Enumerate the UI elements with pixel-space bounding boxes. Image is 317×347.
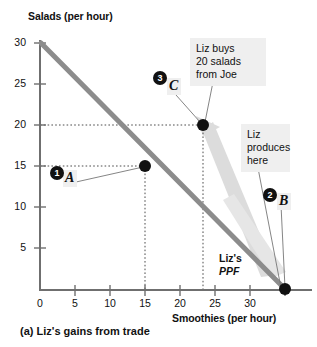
ppf-label-abbr: PPF bbox=[219, 265, 242, 278]
x-tick-label-25: 25 bbox=[205, 297, 225, 309]
y-tick-label-5: 5 bbox=[4, 241, 26, 253]
x-tick-label-0: 0 bbox=[30, 297, 50, 309]
data-point-B bbox=[279, 283, 291, 295]
callout-liz-buys: Liz buys 20 salads from Joe bbox=[190, 38, 266, 86]
ppf-plot-svg bbox=[0, 0, 317, 347]
x-tick-label-30: 30 bbox=[240, 297, 260, 309]
x-tick-label-10: 10 bbox=[100, 297, 120, 309]
y-tick-label-30: 30 bbox=[4, 36, 26, 48]
step-badge-1: 1 bbox=[50, 166, 64, 180]
data-point-A bbox=[139, 160, 151, 172]
dotted-guides bbox=[40, 125, 203, 290]
leader-B bbox=[281, 205, 285, 288]
y-tick-label-10: 10 bbox=[4, 200, 26, 212]
ppf-label-owner: Liz's bbox=[219, 252, 242, 264]
callout-liz-produces: Liz produces here bbox=[241, 124, 290, 172]
leader-buy bbox=[205, 82, 213, 122]
x-tick-label-20: 20 bbox=[170, 297, 190, 309]
data-point-C bbox=[197, 119, 209, 131]
chart-figure: Salads (per hour) Smoothies (per hour) 3… bbox=[0, 0, 317, 347]
point-label-a: A bbox=[63, 170, 77, 187]
step-badge-2: 2 bbox=[263, 188, 277, 202]
y-axis-title: Salads (per hour) bbox=[28, 10, 113, 22]
x-tick-label-15: 15 bbox=[135, 297, 155, 309]
y-tick-label-25: 25 bbox=[4, 77, 26, 89]
figure-caption: (a) Liz's gains from trade bbox=[20, 325, 150, 337]
y-tick-label-20: 20 bbox=[4, 118, 26, 130]
step-badge-3: 3 bbox=[153, 71, 167, 85]
x-tick-label-5: 5 bbox=[65, 297, 85, 309]
leader-A bbox=[76, 167, 143, 182]
ppf-label: Liz's PPF bbox=[219, 252, 242, 278]
x-axis-title: Smoothies (per hour) bbox=[172, 312, 276, 324]
point-label-c: C bbox=[167, 78, 181, 95]
point-label-b: B bbox=[277, 193, 291, 210]
y-tick-label-15: 15 bbox=[4, 159, 26, 171]
